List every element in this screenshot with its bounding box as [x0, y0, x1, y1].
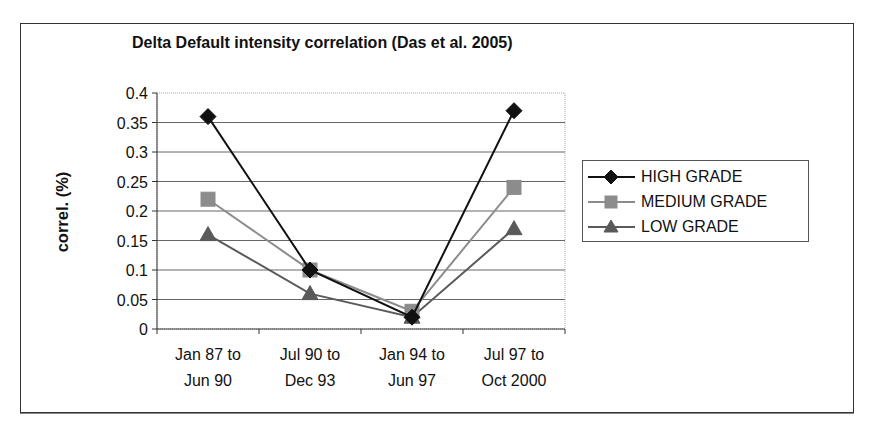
- square-icon: [583, 190, 639, 214]
- series-high-grade: [200, 103, 522, 326]
- legend-item-high-grade: HIGH GRADE: [583, 164, 742, 190]
- y-tick-label: 0.4: [126, 85, 148, 102]
- triangle-marker: [200, 227, 216, 241]
- y-tick-label: 0.05: [117, 292, 148, 309]
- x-tick-label: Jul 90 to: [280, 346, 341, 363]
- triangle-marker: [506, 221, 522, 235]
- square-marker: [201, 192, 215, 206]
- triangle-marker: [302, 286, 318, 300]
- diamond-marker: [506, 103, 522, 119]
- y-tick-label: 0.3: [126, 144, 148, 161]
- legend-item-medium-grade: MEDIUM GRADE: [583, 189, 767, 215]
- x-tick-label: Oct 2000: [482, 372, 547, 389]
- legend-label: MEDIUM GRADE: [641, 193, 767, 211]
- legend-label: HIGH GRADE: [641, 168, 742, 186]
- y-tick-label: 0.25: [117, 174, 148, 191]
- square-marker: [605, 196, 617, 208]
- x-tick-label: Jan 87 to: [175, 346, 241, 363]
- square-marker: [507, 180, 521, 194]
- x-tick-label: Dec 93: [285, 372, 336, 389]
- y-tick-label: 0.2: [126, 203, 148, 220]
- diamond-icon: [583, 165, 639, 189]
- triangle-icon: [583, 215, 639, 239]
- x-tick-label: Jun 90: [184, 372, 232, 389]
- y-tick-label: 0.35: [117, 115, 148, 132]
- x-tick-label: Jul 97 to: [484, 346, 545, 363]
- x-tick-label: Jan 94 to: [379, 346, 445, 363]
- y-tick-label: 0.15: [117, 233, 148, 250]
- x-tick-label: Jun 97: [388, 372, 436, 389]
- legend-item-low-grade: LOW GRADE: [583, 214, 739, 240]
- series-medium-grade: [201, 180, 521, 318]
- diamond-marker: [604, 170, 618, 184]
- legend-label: LOW GRADE: [641, 218, 739, 236]
- y-tick-label: 0: [139, 321, 148, 338]
- chart-legend: HIGH GRADEMEDIUM GRADELOW GRADE: [582, 160, 809, 242]
- y-tick-label: 0.1: [126, 262, 148, 279]
- series-line: [208, 111, 514, 318]
